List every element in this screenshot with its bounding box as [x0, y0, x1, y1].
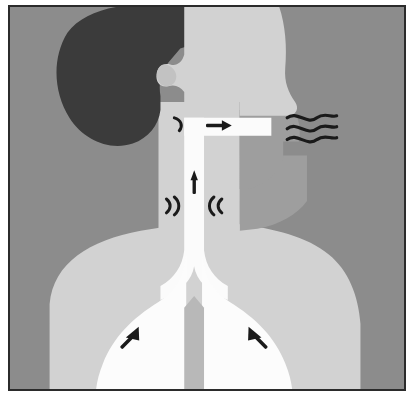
illustration-frame	[8, 5, 406, 391]
illustration-title: Human respiratory and vocal tract, side …	[0, 0, 1, 1]
illustration-subject: Airflow from lungs through trachea and l…	[0, 0, 1, 1]
mediastinum-wedge	[184, 296, 204, 389]
respiratory-system-illustration	[10, 7, 404, 389]
illustration-stage: Human respiratory and vocal tract, side …	[0, 0, 414, 401]
